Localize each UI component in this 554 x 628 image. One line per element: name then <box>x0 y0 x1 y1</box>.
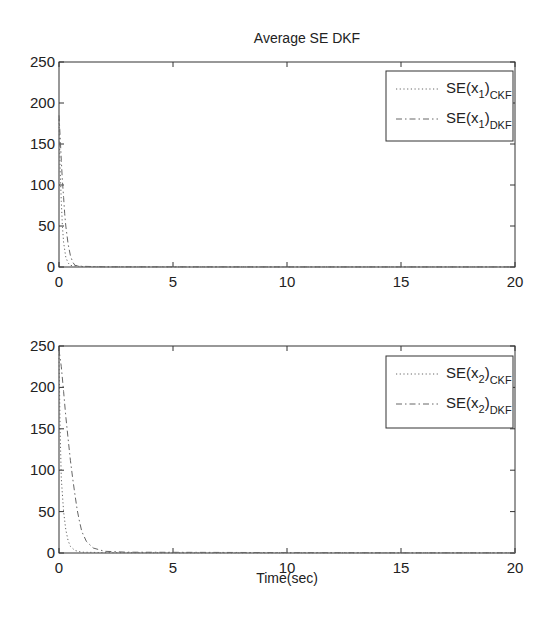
x-tick-label: 15 <box>393 273 410 290</box>
y-tick-label: 0 <box>47 544 55 561</box>
x-axis-label: Time(sec) <box>59 570 515 586</box>
y-tick-label: 150 <box>30 135 55 152</box>
x-tick-label: 0 <box>55 273 63 290</box>
x-tick-label: 20 <box>507 273 524 290</box>
x-tick-label: 5 <box>169 273 177 290</box>
legend: SE(x2)CKFSE(x2)DKF <box>386 356 513 428</box>
y-tick-label: 50 <box>38 503 55 520</box>
y-tick-label: 0 <box>47 258 55 275</box>
x-tick-label: 10 <box>279 273 296 290</box>
y-tick-label: 200 <box>30 378 55 395</box>
y-tick-label: 100 <box>30 176 55 193</box>
y-tick-label: 200 <box>30 94 55 111</box>
y-tick-label: 50 <box>38 217 55 234</box>
y-tick-label: 150 <box>30 420 55 437</box>
subplot-2: 05101520050100150200250SE(x2)CKFSE(x2)DK… <box>30 337 523 576</box>
y-tick-label: 100 <box>30 461 55 478</box>
figure-canvas: 05101520050100150200250SE(x1)CKFSE(x1)DK… <box>0 0 554 628</box>
y-tick-label: 250 <box>30 337 55 354</box>
legend: SE(x1)CKFSE(x1)DKF <box>386 71 513 141</box>
y-tick-label: 250 <box>30 53 55 70</box>
series-line-dotted <box>59 119 515 267</box>
subplot-1: 05101520050100150200250SE(x1)CKFSE(x1)DK… <box>30 53 523 290</box>
